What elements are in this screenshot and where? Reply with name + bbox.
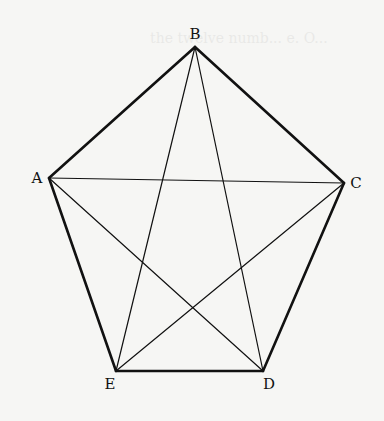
side-cd <box>263 183 344 371</box>
side-ea <box>49 178 116 371</box>
side-bc <box>195 47 344 183</box>
vertex-label-c: C <box>350 174 361 192</box>
side-ab <box>49 47 195 178</box>
diagonal-ac <box>49 178 344 183</box>
pentagon-sides <box>49 47 344 371</box>
vertex-label-d: D <box>263 375 275 393</box>
vertex-label-b: B <box>189 25 200 43</box>
pentagon-diagram: ABCDE <box>0 0 384 421</box>
vertex-label-e: E <box>105 375 116 393</box>
diagonals <box>49 47 344 371</box>
diagonal-be <box>116 47 195 371</box>
diagonal-bd <box>195 47 263 371</box>
vertex-label-a: A <box>31 169 43 187</box>
